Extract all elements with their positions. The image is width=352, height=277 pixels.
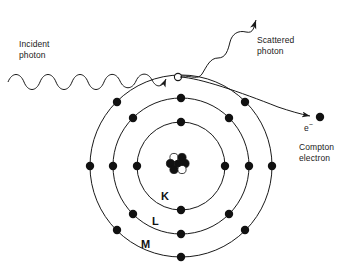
electron-m <box>86 162 94 170</box>
nucleus <box>166 153 189 173</box>
electron-m <box>177 253 185 261</box>
electron-l <box>129 114 137 122</box>
shell-label-l: L <box>152 216 159 227</box>
compton-electron-dot <box>316 113 324 121</box>
incident-photon-wave <box>8 74 166 89</box>
electron-l <box>109 162 117 170</box>
electron-l <box>177 230 185 238</box>
scattered-photon-wave <box>182 20 256 77</box>
electron-k <box>133 162 141 170</box>
electron-m <box>241 226 249 234</box>
compton-electron-label: Compton electron <box>299 142 334 163</box>
electron-l <box>177 94 185 102</box>
electron-m <box>241 98 249 106</box>
incident-photon-label: Incident photon <box>19 39 50 60</box>
electron-l <box>245 162 253 170</box>
electron-l <box>225 114 233 122</box>
electron-m <box>113 226 121 234</box>
electron-m <box>268 162 276 170</box>
compton-diagram-svg <box>0 0 352 277</box>
compton-electron-path <box>180 77 310 116</box>
electron-symbol-label: e− <box>304 120 313 133</box>
compton-scattering-figure: Incident photon Scattered photon e− Comp… <box>0 0 352 277</box>
shell-label-m: M <box>141 239 150 250</box>
electron-l <box>225 210 233 218</box>
electron-k <box>177 118 185 126</box>
scattered-photon-label: Scattered photon <box>257 35 294 56</box>
electron-l <box>129 210 137 218</box>
nucleon-center-dark <box>175 160 182 167</box>
electron-k <box>221 162 229 170</box>
electron-charge-superscript: − <box>309 121 313 128</box>
shell-label-k: K <box>161 191 169 202</box>
electron-k <box>177 206 185 214</box>
electron-m <box>113 98 121 106</box>
